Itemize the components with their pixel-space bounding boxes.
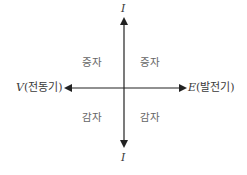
right-axis-text: (발전기): [196, 81, 235, 94]
left-axis-symbol: V: [16, 81, 24, 94]
quadrant-bottom-right-label: 감자: [140, 111, 160, 123]
left-axis-text: (전동기): [24, 81, 63, 94]
left-axis-label: V(전동기): [16, 82, 63, 94]
quadrant-top-right-label: 증자: [140, 56, 160, 68]
right-axis-symbol: E: [188, 81, 196, 94]
right-axis-label: E(발전기): [188, 82, 235, 94]
top-axis-label: I: [121, 3, 125, 15]
quadrant-top-left-label: 증자: [82, 56, 102, 68]
quadrant-bottom-left-label: 감자: [82, 111, 102, 123]
bottom-axis-label: I: [121, 152, 125, 164]
